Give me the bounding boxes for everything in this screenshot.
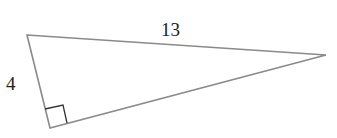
triangle-diagram: 13 4 <box>0 0 337 138</box>
hypotenuse-label: 13 <box>161 19 180 40</box>
triangle <box>27 35 326 128</box>
left-leg-label: 4 <box>6 73 16 94</box>
